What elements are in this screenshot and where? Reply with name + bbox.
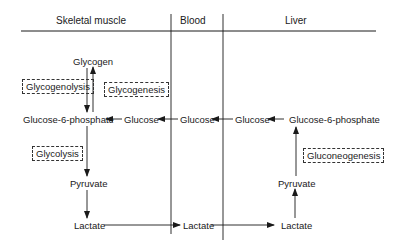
process-box-glycolysis: Glycolysis <box>32 146 83 161</box>
muscle-pyruvate: Pyruvate <box>70 178 108 189</box>
column-header-liver: Liver <box>285 15 307 27</box>
liver-glucose-6-phosphate: Glucose-6-phosphate <box>289 114 380 125</box>
process-box-glycogenesis: Glycogenesis <box>104 82 169 97</box>
muscle-glucose: Glucose <box>124 114 159 125</box>
process-box-glycogenolysis: Glycogenolysis <box>22 79 94 94</box>
liver-pyruvate: Pyruvate <box>278 178 316 189</box>
blood-glucose: Glucose <box>180 114 215 125</box>
blood-lactate: Lactate <box>183 220 214 231</box>
muscle-lactate: Lactate <box>74 220 105 231</box>
liver-glucose: Glucose <box>235 114 270 125</box>
column-header-skeletal-muscle: Skeletal muscle <box>56 15 126 27</box>
liver-lactate: Lactate <box>281 220 312 231</box>
muscle-glucose-6-phosphate: Glucose-6-phosphate <box>23 114 114 125</box>
muscle-glycogen: Glycogen <box>73 56 113 67</box>
process-box-gluconeogenesis: Gluconeogenesis <box>303 148 384 163</box>
column-header-blood: Blood <box>180 15 206 27</box>
